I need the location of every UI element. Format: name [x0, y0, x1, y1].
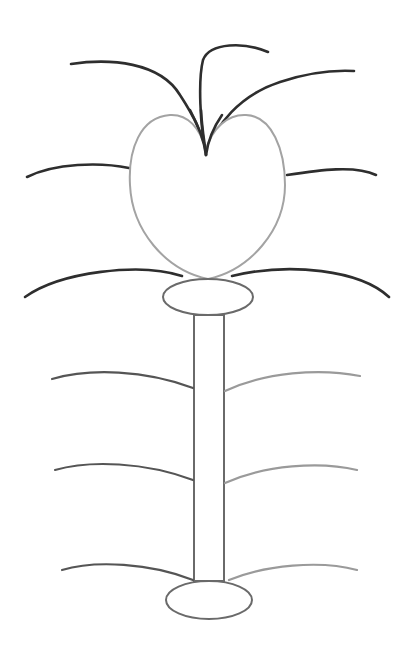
- stem: [194, 315, 224, 581]
- drawing-canvas: [0, 0, 409, 656]
- plant-drawing: [0, 0, 409, 656]
- bottom-ellipse: [166, 581, 252, 619]
- top-ellipse: [163, 279, 253, 315]
